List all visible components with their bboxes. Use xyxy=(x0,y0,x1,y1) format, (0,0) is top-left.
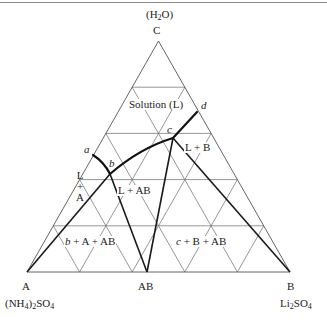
region-l-plus-ab-label: L + AB xyxy=(117,185,152,196)
ternary-diagram-canvas xyxy=(0,0,327,324)
region-l-plus-a-label: L + A xyxy=(73,170,87,203)
region-solution-label: Solution (L) xyxy=(128,99,184,110)
point-a-label: a xyxy=(84,144,90,155)
vertex-a-formula: (NH4)2SO4 xyxy=(5,298,54,311)
point-d-label: d xyxy=(201,100,207,111)
vertex-c-formula: (H2O) xyxy=(146,9,173,22)
vertex-b-label: B xyxy=(287,281,294,292)
region-c-b-ab-label: c + B + AB xyxy=(175,236,227,247)
vertex-c-label: C xyxy=(153,25,160,36)
region-l-plus-b-label: L + B xyxy=(184,142,211,153)
curve-a-b xyxy=(93,155,110,174)
vertex-a-label: A xyxy=(22,281,30,292)
curve-c-d xyxy=(173,112,197,138)
region-b-a-ab-label: b + A + AB xyxy=(64,236,116,247)
compound-ab-label: AB xyxy=(138,281,153,292)
point-b-label: b xyxy=(109,158,115,169)
vertex-b-formula: Li2SO4 xyxy=(280,298,312,311)
tie-lines xyxy=(27,138,290,272)
point-c-label: c xyxy=(167,124,172,135)
curve-b-c xyxy=(110,138,173,174)
